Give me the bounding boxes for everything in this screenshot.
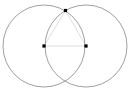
left-center-to-top-segment [44, 11, 66, 47]
right-center-to-top-segment [66, 11, 87, 47]
geometry-figure [0, 0, 134, 97]
top-intersection-marker [64, 9, 67, 12]
right-center-marker [84, 44, 87, 47]
left-center-marker [42, 44, 45, 47]
chord-lines-group [44, 11, 86, 47]
diagram-canvas [0, 0, 134, 97]
